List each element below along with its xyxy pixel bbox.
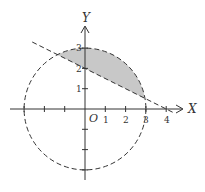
y-tick-2: 2 (76, 64, 82, 74)
x-tick-2: 2 (123, 115, 129, 125)
diagram: X Y O 1 2 3 4 1 2 3 (0, 0, 205, 192)
origin-label: O (89, 112, 98, 125)
x-tick-3: 3 (143, 115, 149, 125)
y-axis-label: Y (82, 11, 91, 25)
x-tick-1: 1 (103, 115, 109, 125)
x-axis-label: X (187, 102, 197, 116)
x-tick-4: 4 (164, 115, 170, 125)
y-tick-1: 1 (76, 84, 82, 94)
y-tick-3: 3 (76, 43, 82, 53)
shaded-region (58, 48, 145, 98)
